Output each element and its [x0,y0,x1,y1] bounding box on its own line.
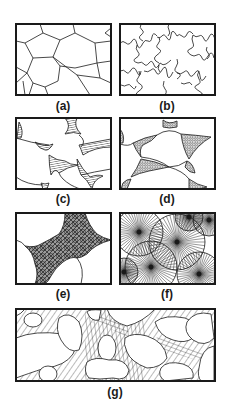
panel-label-a: (a) [43,99,83,113]
panel-g-banded-matrix [15,308,216,382]
sutured-grains-drawing [119,23,216,96]
banded-matrix-drawing [15,308,216,382]
panel-c-pore-cement [15,117,112,190]
polygonal-grains-drawing [15,23,112,96]
pore-cement-drawing [15,117,112,190]
panel-a-polygonal-grains [15,23,112,96]
panel-label-b: (b) [147,99,187,113]
panel-label-d: (d) [147,192,187,206]
coated-grains-drawing [119,117,216,190]
panel-label-f: (f) [147,287,187,301]
panel-label-e: (e) [43,287,83,301]
panel-label-g: (g) [95,385,135,399]
fibrous-cement-drawing [15,212,112,285]
panel-e-fibrous-cement [15,212,112,285]
panel-d-coated-grains [119,117,216,190]
panel-f-spherulites [119,212,216,285]
spherulites-drawing [119,212,216,285]
panel-b-sutured-grains [119,23,216,96]
panel-label-c: (c) [43,192,83,206]
